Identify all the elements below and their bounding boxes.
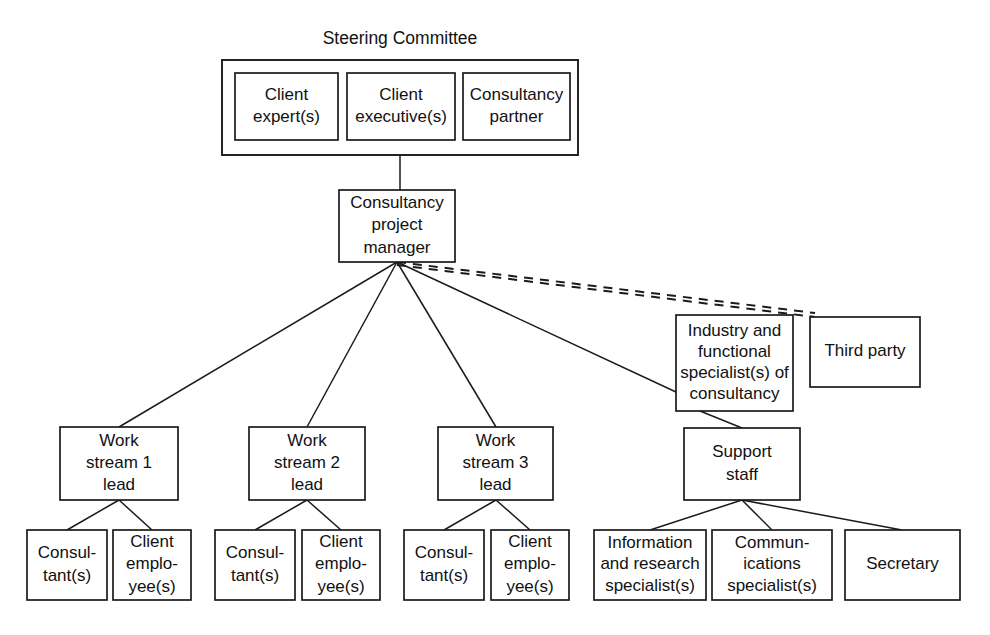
node-support-staff[interactable]: Supportstaff [684, 428, 800, 500]
node-label-consultancy-project-manager-line-3: manager [363, 238, 430, 257]
node-label-industry-functional-specialist-line-2: functional [698, 342, 771, 361]
node-client-expert[interactable]: Clientexpert(s) [235, 73, 338, 140]
node-industry-functional-specialist[interactable]: Industry andfunctionalspecialist(s) ofco… [676, 315, 793, 411]
node-label-work-stream-1-lead-line-2: stream 1 [86, 453, 152, 472]
node-label-third-party-line-1: Third party [824, 341, 906, 360]
node-label-work-stream-1-lead-line-1: Work [99, 431, 139, 450]
node-label-communications-specialist-line-3: specialist(s) [727, 576, 817, 595]
connector-ws1-to-employee [119, 500, 152, 530]
node-consultancy-project-manager[interactable]: Consultancyprojectmanager [339, 190, 455, 262]
node-label-work-stream-3-lead-line-2: stream 3 [462, 453, 528, 472]
connector-ws2-to-employee [307, 500, 341, 530]
node-information-research-specialist[interactable]: Informationand researchspecialist(s) [594, 530, 706, 600]
node-label-work-stream-3-lead-line-3: lead [479, 475, 511, 494]
node-consultant-2[interactable]: Consul-tant(s) [215, 530, 295, 600]
node-consultancy-partner[interactable]: Consultancypartner [463, 73, 570, 140]
node-label-consultancy-project-manager-line-1: Consultancy [350, 193, 444, 212]
connector-pm-to-thirdparty-upper [397, 262, 815, 313]
connector-ws2-to-consultant [255, 500, 307, 530]
node-label-communications-specialist-line-1: Commun- [735, 533, 810, 552]
node-work-stream-2-lead[interactable]: Workstream 2lead [249, 427, 365, 500]
node-label-consultant-1-line-2: tant(s) [43, 566, 91, 585]
node-communications-specialist[interactable]: Commun-icationsspecialist(s) [712, 530, 832, 600]
node-label-consultancy-partner-line-2: partner [490, 107, 544, 126]
node-label-client-employee-3-line-3: yee(s) [506, 577, 553, 596]
node-label-consultant-1-line-1: Consul- [38, 543, 97, 562]
node-label-consultancy-partner-line-1: Consultancy [470, 85, 564, 104]
node-label-industry-functional-specialist-line-1: Industry and [688, 321, 782, 340]
node-label-support-staff-line-1: Support [712, 442, 772, 461]
node-label-client-expert-line-1: Client [265, 85, 309, 104]
node-label-client-employee-1-line-2: emplo- [126, 554, 178, 573]
node-work-stream-1-lead[interactable]: Workstream 1lead [60, 427, 178, 500]
node-label-client-employee-2-line-3: yee(s) [317, 577, 364, 596]
node-consultant-3[interactable]: Consul-tant(s) [404, 530, 484, 600]
node-label-secretary-line-1: Secretary [866, 554, 939, 573]
connector-ws1-to-consultant [67, 500, 119, 530]
node-consultant-1[interactable]: Consul-tant(s) [27, 530, 107, 600]
node-label-client-employee-1-line-1: Client [130, 532, 174, 551]
node-label-work-stream-2-lead-line-1: Work [287, 431, 327, 450]
node-label-client-expert-line-2: expert(s) [253, 107, 320, 126]
connector-support-to-secretary [742, 500, 902, 530]
node-label-information-research-specialist-line-1: Information [607, 533, 692, 552]
connector-specialist-to-support [700, 411, 742, 428]
org-chart-diagram: Steering Committee Clientexpert(s)Client… [0, 0, 990, 635]
node-label-work-stream-2-lead-line-2: stream 2 [274, 453, 340, 472]
node-label-work-stream-1-lead-line-3: lead [103, 475, 135, 494]
connector-ws3-to-consultant [444, 500, 496, 530]
node-label-industry-functional-specialist-line-3: specialist(s) of [680, 363, 789, 382]
node-label-consultant-3-line-2: tant(s) [420, 566, 468, 585]
node-third-party[interactable]: Third party [810, 317, 920, 387]
node-client-executive[interactable]: Clientexecutive(s) [347, 73, 455, 140]
node-label-consultant-2-line-2: tant(s) [231, 566, 279, 585]
node-label-communications-specialist-line-2: ications [743, 554, 801, 573]
node-label-information-research-specialist-line-3: specialist(s) [605, 576, 695, 595]
node-client-employee-2[interactable]: Clientemplo-yee(s) [302, 530, 380, 600]
node-label-consultant-3-line-1: Consul- [415, 543, 474, 562]
node-label-client-executive-line-2: executive(s) [355, 107, 447, 126]
connector-pm-to-ws3 [397, 262, 496, 427]
node-secretary[interactable]: Secretary [845, 530, 960, 600]
node-label-consultancy-project-manager-line-2: project [371, 215, 422, 234]
node-label-client-executive-line-1: Client [379, 85, 423, 104]
node-label-work-stream-3-lead-line-1: Work [476, 431, 516, 450]
node-label-client-employee-2-line-1: Client [319, 532, 363, 551]
node-label-information-research-specialist-line-2: and research [600, 554, 699, 573]
node-label-client-employee-3-line-1: Client [508, 532, 552, 551]
node-client-employee-3[interactable]: Clientemplo-yee(s) [491, 530, 569, 600]
node-label-client-employee-3-line-2: emplo- [504, 554, 556, 573]
node-label-industry-functional-specialist-line-4: consultancy [690, 384, 780, 403]
node-work-stream-3-lead[interactable]: Workstream 3lead [438, 427, 553, 500]
group-title-steering-committee: Steering Committee [323, 28, 478, 48]
connector-pm-to-ws2 [307, 262, 397, 427]
connector-pm-to-specialist [397, 262, 676, 392]
node-client-employee-1[interactable]: Clientemplo-yee(s) [113, 530, 191, 600]
node-label-support-staff-line-2: staff [726, 465, 758, 484]
connector-support-to-information [650, 500, 742, 530]
node-label-work-stream-2-lead-line-3: lead [291, 475, 323, 494]
connector-ws3-to-employee [496, 500, 530, 530]
diagram-canvas: Steering Committee Clientexpert(s)Client… [0, 0, 990, 635]
node-label-client-employee-2-line-2: emplo- [315, 554, 367, 573]
node-label-consultant-2-line-1: Consul- [226, 543, 285, 562]
connector-pm-to-ws1 [119, 262, 397, 427]
node-label-client-employee-1-line-3: yee(s) [128, 577, 175, 596]
